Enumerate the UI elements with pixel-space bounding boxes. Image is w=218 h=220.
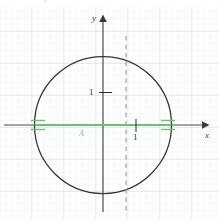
x-axis-tick-label: 1: [133, 133, 138, 142]
y-axis: [99, 15, 107, 213]
y-axis-label: y: [92, 14, 96, 23]
y-axis-tick-label: 1: [89, 88, 94, 97]
plot-layer: [0, 0, 218, 220]
figure-canvas: y · · ·: [0, 0, 218, 220]
x-axis-label: x: [205, 131, 209, 140]
region-label-a: A: [79, 130, 84, 138]
